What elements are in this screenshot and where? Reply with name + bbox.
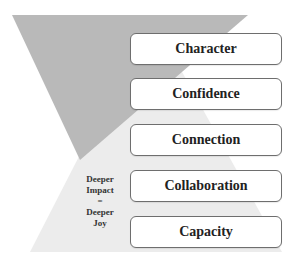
layer-label: Connection (172, 132, 240, 148)
layer-label: Character (175, 41, 236, 57)
side-label-line: Deeper (68, 174, 132, 185)
layer-box-capacity: Capacity (130, 216, 282, 248)
side-label-line: Impact (68, 185, 132, 196)
side-label-line: Joy (68, 218, 132, 229)
layer-label: Confidence (172, 86, 240, 102)
layer-box-connection: Connection (130, 124, 282, 156)
layer-label: Capacity (179, 224, 233, 240)
layer-box-character: Character (130, 33, 282, 65)
layer-label: Collaboration (164, 178, 247, 194)
side-label-line: Deeper (68, 207, 132, 218)
diagram-canvas: Character Confidence Connection Collabor… (0, 0, 303, 268)
side-label-line: = (68, 196, 132, 207)
layer-box-collaboration: Collaboration (130, 170, 282, 202)
layer-box-confidence: Confidence (130, 78, 282, 110)
deeper-impact-label: Deeper Impact = Deeper Joy (68, 174, 132, 229)
